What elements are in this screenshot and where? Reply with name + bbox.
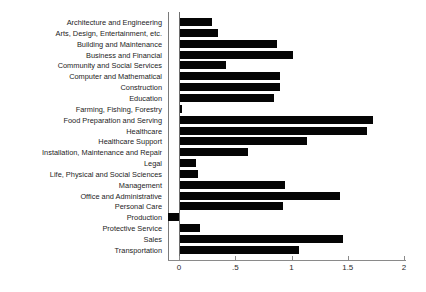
category-label: Business and Financial (86, 50, 162, 61)
bar (179, 127, 367, 135)
bar (179, 192, 340, 200)
category-label: Construction (121, 82, 163, 93)
category-label: Protective Service (102, 223, 162, 234)
bar (179, 137, 307, 145)
bar-row (168, 234, 418, 245)
bar-row (168, 223, 418, 234)
bar (179, 18, 212, 26)
bar-row (168, 50, 418, 61)
category-label: Food Preparation and Serving (63, 115, 162, 126)
bar-row (168, 39, 418, 50)
bar (168, 213, 179, 221)
category-label: Production (127, 212, 162, 223)
category-label: Healthcare Support (98, 136, 162, 147)
category-label: Arts, Design, Entertainment, etc. (56, 28, 162, 39)
bar-row (168, 201, 418, 212)
x-axis-tick-label: 1 (289, 263, 293, 273)
category-axis-labels: Architecture and EngineeringArts, Design… (0, 12, 166, 260)
category-label: Legal (144, 158, 162, 169)
category-label: Installation, Maintenance and Repair (42, 147, 162, 158)
bar-row (168, 180, 418, 191)
bar-row (168, 60, 418, 71)
bar (179, 202, 283, 210)
x-axis-tick (292, 256, 293, 261)
value-axis: 0.511.52 (0, 252, 426, 276)
bar (179, 159, 196, 167)
bars-layer (168, 12, 418, 260)
figure-caption (6, 284, 420, 292)
category-label: Life, Physical and Social Sciences (50, 169, 162, 180)
category-label: Personal Care (115, 201, 162, 212)
x-axis-tick (179, 256, 180, 261)
bar (179, 51, 293, 59)
category-label: Architecture and Engineering (67, 17, 162, 28)
x-axis-tick (348, 256, 349, 261)
category-label: Farming, Fishing, Forestry (76, 104, 162, 115)
bar (179, 83, 280, 91)
bar (179, 40, 277, 48)
bar-row (168, 28, 418, 39)
bar-row (168, 126, 418, 137)
category-label: Computer and Mathematical (69, 71, 162, 82)
bar (179, 61, 226, 69)
bar-row (168, 169, 418, 180)
x-axis-tick-label: 1.5 (342, 263, 353, 273)
plot-area: Architecture and EngineeringArts, Design… (0, 12, 426, 260)
bar-row (168, 104, 418, 115)
category-label: Office and Administrative (80, 191, 162, 202)
bar-row (168, 71, 418, 82)
x-axis-tick-label: 0 (177, 263, 181, 273)
bar (179, 29, 218, 37)
value-axis-line (168, 260, 406, 261)
bar (179, 235, 343, 243)
bar (179, 170, 198, 178)
bar-row (168, 136, 418, 147)
x-axis-tick (404, 256, 405, 261)
category-label: Building and Maintenance (77, 39, 162, 50)
category-label: Sales (144, 234, 163, 245)
bar (179, 224, 200, 232)
bar (179, 72, 280, 80)
x-axis-tick (235, 256, 236, 261)
bar-row (168, 93, 418, 104)
bar-chart-figure: Architecture and EngineeringArts, Design… (0, 0, 426, 292)
category-label: Management (119, 180, 162, 191)
bar (179, 148, 248, 156)
bar-row (168, 191, 418, 202)
bar (179, 116, 373, 124)
bar-row (168, 147, 418, 158)
category-label: Healthcare (126, 126, 162, 137)
bar (179, 94, 274, 102)
bar-row (168, 17, 418, 28)
bar-row (168, 212, 418, 223)
bar-row (168, 158, 418, 169)
x-axis-tick-label: 2 (402, 263, 406, 273)
zero-baseline (179, 12, 180, 260)
bar-row (168, 82, 418, 93)
bar-row (168, 115, 418, 126)
bar (179, 181, 285, 189)
category-label: Education (129, 93, 162, 104)
category-label: Community and Social Services (58, 60, 162, 71)
x-axis-tick-label: .5 (232, 263, 239, 273)
